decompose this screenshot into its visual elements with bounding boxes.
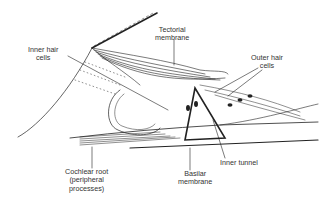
label-basilar-membrane: Basilar membrane — [178, 170, 212, 187]
label-inner-hair-cells: Inner hair cells — [28, 46, 58, 63]
label-cochlear-root: Cochlear root (peripheral processes) — [65, 168, 108, 193]
label-tectorial-membrane: Tectorial membrane — [155, 26, 189, 43]
label-inner-tunnel: Inner tunnel — [220, 159, 258, 167]
label-outer-hair-cells: Outer hair cells — [251, 54, 283, 71]
organ-of-corti-diagram: Inner hair cells Tectorial membrane Oute… — [0, 0, 332, 205]
